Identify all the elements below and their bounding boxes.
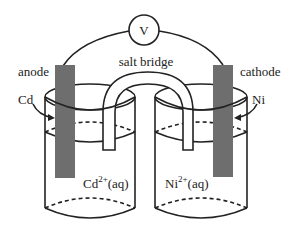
cd-ion-label: Cd2+(aq)	[83, 174, 129, 191]
cd-metal-label: Cd	[18, 92, 34, 107]
ni-arrowhead-icon	[234, 114, 241, 121]
voltmeter: V	[129, 15, 159, 45]
voltmeter-label: V	[139, 23, 149, 38]
ni-metal-label: Ni	[252, 92, 265, 107]
galvanic-cell-diagram: V salt bridge anode cathode Cd	[0, 0, 297, 241]
cathode-label: cathode	[240, 64, 281, 79]
salt-bridge-label: salt bridge	[119, 54, 174, 69]
ni-ion-label: Ni2+(aq)	[165, 174, 209, 191]
anode-electrode	[55, 65, 75, 178]
cd-arrowhead-icon	[48, 114, 55, 121]
anode-label: anode	[18, 64, 49, 79]
cathode-electrode	[213, 65, 233, 177]
